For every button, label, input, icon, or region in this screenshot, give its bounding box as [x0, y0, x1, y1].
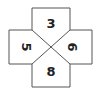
left-region-number: 5 — [19, 42, 34, 51]
right-region-number: 6 — [65, 42, 80, 51]
cross-diagram: 3 8 5 6 — [0, 0, 98, 93]
bottom-region-number: 8 — [46, 64, 55, 79]
top-region-number: 3 — [46, 16, 55, 31]
